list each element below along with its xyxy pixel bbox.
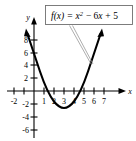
formula-arg: (x) xyxy=(54,11,65,22)
annotation-leader-lines xyxy=(70,26,94,65)
quadratic-graph-figure: -2 1 2 3 4 5 6 7 8 6 4 2 -2 -4 -6 x y xyxy=(0,0,136,141)
y-axis-label: y xyxy=(25,13,30,22)
leader-line-right xyxy=(73,26,94,65)
x-tick-label-3: 3 xyxy=(62,97,66,106)
curve-left-arrowhead xyxy=(24,29,31,38)
x-tick-label-6: 6 xyxy=(92,97,96,106)
y-tick-label-2: 2 xyxy=(24,74,28,83)
x-tick-label-1: 1 xyxy=(42,97,46,106)
y-axis-arrowhead xyxy=(31,17,37,25)
leader-line-left xyxy=(70,26,92,65)
y-tick-labels: 8 6 4 2 -2 -4 -6 xyxy=(22,36,29,135)
plot-canvas: -2 1 2 3 4 5 6 7 8 6 4 2 -2 -4 -6 x y xyxy=(0,0,136,141)
y-tick-label--6: -6 xyxy=(22,126,29,135)
x-axis-arrowhead xyxy=(119,88,127,94)
x-tick-label-5: 5 xyxy=(82,97,86,106)
x-tick-label--2: -2 xyxy=(11,97,18,106)
formula-plus: + xyxy=(105,11,110,21)
y-tick-label--2: -2 xyxy=(22,100,29,109)
x-tick-label-7: 7 xyxy=(102,97,106,106)
y-tick-label--4: -4 xyxy=(22,113,29,122)
formula-minus: − xyxy=(86,11,91,21)
curve-right-arrowhead xyxy=(97,29,104,38)
x-axis-label: x xyxy=(127,87,132,96)
y-tick-label-6: 6 xyxy=(24,49,28,58)
y-tick-label-8: 8 xyxy=(24,36,28,45)
formula-var2: x xyxy=(97,11,103,21)
formula-equals: = xyxy=(67,11,72,21)
y-tick-label-4: 4 xyxy=(24,61,28,70)
formula-constant: 5 xyxy=(113,11,118,21)
formula-callout: f(x)=x2−6x+5 xyxy=(46,6,133,25)
